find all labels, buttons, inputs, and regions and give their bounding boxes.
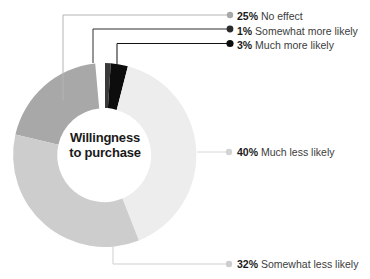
legend-item-somewhat-less-likely[interactable]: 32% Somewhat less likely	[237, 258, 358, 270]
legend-value-somewhat-more-likely: 1%	[237, 25, 252, 37]
legend-item-much-less-likely[interactable]: 40% Much less likely	[237, 146, 334, 158]
leader-dot-much-less-likely	[226, 149, 232, 155]
legend-item-somewhat-more-likely[interactable]: 1% Somewhat more likely	[237, 25, 358, 37]
leader-line-somewhat-less-likely	[113, 243, 226, 264]
legend-label-somewhat-more-likely: Somewhat more likely	[255, 25, 358, 37]
legend-value-much-less-likely: 40%	[237, 146, 258, 158]
leader-dot-somewhat-less-likely	[226, 261, 232, 267]
legend-value-somewhat-less-likely: 32%	[237, 258, 258, 270]
leader-dot-somewhat-more-likely	[227, 26, 234, 33]
donut-center-label: Willingness to purchase	[58, 130, 152, 160]
leader-dot-much-more-likely	[226, 40, 233, 47]
legend-item-much-more-likely[interactable]: 3% Much more likely	[237, 39, 334, 51]
leader-line-somewhat-more-likely	[93, 29, 228, 63]
legend-value-much-more-likely: 3%	[237, 39, 252, 51]
legend-label-much-more-likely: Much more likely	[255, 39, 334, 51]
legend-item-no-effect[interactable]: 25% No effect	[237, 10, 303, 22]
legend-label-much-less-likely: Much less likely	[261, 146, 335, 158]
center-label-line-1: Willingness	[58, 130, 152, 145]
donut-chart: Willingness to purchase 25% No effect 1%…	[0, 0, 370, 279]
leader-line-much-more-likely	[117, 44, 228, 71]
legend-value-no-effect: 25%	[237, 10, 258, 22]
legend-label-no-effect: No effect	[261, 10, 303, 22]
legend-label-somewhat-less-likely: Somewhat less likely	[261, 258, 358, 270]
center-label-line-2: to purchase	[58, 145, 152, 160]
leader-dot-no-effect	[227, 12, 233, 18]
